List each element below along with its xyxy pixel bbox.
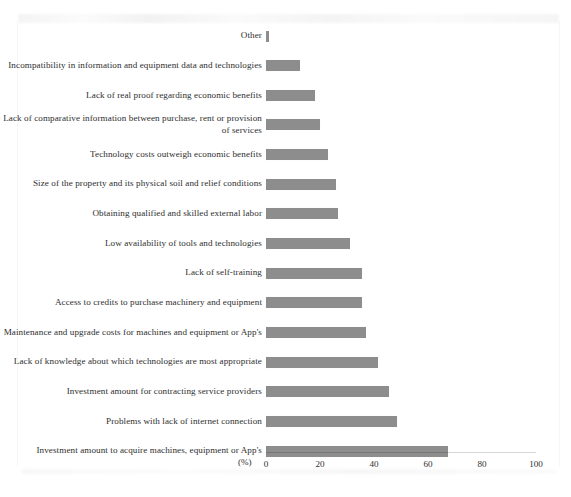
bar [266,208,338,219]
bar-row: Lack of comparative information between … [0,109,571,141]
category-label: Size of the property and its physical so… [0,178,262,190]
x-axis-line [266,452,536,453]
horizontal-bar-chart: OtherIncompatibility in information and … [0,0,571,497]
bar [266,31,269,42]
bar-row: Size of the property and its physical so… [0,168,571,200]
bar-cell [262,60,571,71]
category-label: Technology costs outweigh economic benef… [0,149,262,161]
category-label: Other [0,30,262,42]
category-label: Access to credits to purchase machinery … [0,297,262,309]
bar-cell [262,297,571,308]
bar-cell [262,238,571,249]
bar-row: Maintenance and upgrade costs for machin… [0,317,571,349]
category-label: Lack of self-training [0,267,262,279]
bar-cell [262,357,571,368]
x-tick-label: 60 [423,459,432,469]
category-label: Lack of real proof regarding economic be… [0,90,262,102]
category-label: Maintenance and upgrade costs for machin… [0,327,262,339]
x-tick-label: 0 [264,459,269,469]
bar [266,90,315,101]
bar [266,268,362,279]
category-label: Obtaining qualified and skilled external… [0,208,262,220]
bar [266,416,397,427]
bar [266,119,320,130]
bar-cell [262,119,571,130]
bar-cell [262,31,571,42]
bar-cell [262,327,571,338]
bar-row: Lack of knowledge about which technologi… [0,346,571,378]
bar [266,238,350,249]
category-label: Lack of knowledge about which technologi… [0,356,262,368]
bar [266,327,366,338]
bar-row: Investment amount for contracting servic… [0,376,571,408]
x-tick-label: 40 [369,459,378,469]
bar-cell [262,416,571,427]
bar-cell [262,149,571,160]
category-label: Investment amount to acquire machines, e… [0,445,262,457]
bar-cell [262,179,571,190]
category-label: Lack of comparative information between … [0,113,262,136]
bar-row: Incompatibility in information and equip… [0,50,571,82]
x-axis-unit-label: (%) [238,457,252,467]
x-tick-label: 100 [529,459,543,469]
bar-row: Lack of real proof regarding economic be… [0,79,571,111]
bar-row: Access to credits to purchase machinery … [0,287,571,319]
bar-cell [262,90,571,101]
bar-row: Technology costs outweigh economic benef… [0,139,571,171]
bar-row: Other [0,20,571,52]
category-label: Incompatibility in information and equip… [0,60,262,72]
bar [266,297,362,308]
bar [266,179,336,190]
bar-cell [262,268,571,279]
bar [266,149,328,160]
x-tick-label: 80 [477,459,486,469]
category-label: Low availability of tools and technologi… [0,238,262,250]
category-label: Problems with lack of internet connectio… [0,416,262,428]
bar-row: Obtaining qualified and skilled external… [0,198,571,230]
bar-row: Problems with lack of internet connectio… [0,405,571,437]
bar-cell [262,208,571,219]
category-label: Investment amount for contracting servic… [0,386,262,398]
bar-row: Lack of self-training [0,257,571,289]
bar [266,386,389,397]
bar-cell [262,386,571,397]
bar [266,357,378,368]
bar-row: Low availability of tools and technologi… [0,228,571,260]
x-tick-label: 20 [315,459,324,469]
bar [266,60,300,71]
